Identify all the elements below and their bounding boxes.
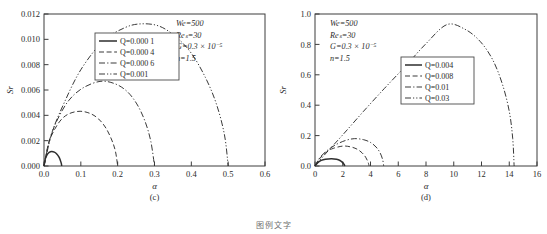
x-tick-label: 4	[368, 169, 373, 179]
x-tick-label: 0.2	[112, 169, 123, 179]
x-tick-label: 0	[313, 169, 317, 179]
y-tick-label: 0.2	[300, 131, 311, 141]
legend-label-d-2: Q=0.01	[425, 83, 449, 92]
x-tick-label: 14	[505, 169, 514, 179]
figure-caption: 图例文字	[0, 216, 547, 234]
annotation-line: G=0.3 × 10⁻⁵	[176, 42, 222, 51]
y-tick-label: 0.008	[21, 60, 40, 70]
y-tick-label: 0.010	[21, 34, 40, 44]
annotation-line: We=500	[330, 19, 358, 28]
annotation-line: Reₛ=30	[329, 31, 355, 40]
chart-panel-d: 02468101214160.00.20.40.60.81.0Srα(d)We=…	[275, 0, 547, 205]
legend-label-c-0: Q=0.000 1	[120, 37, 154, 46]
y-tick-label: 1.0	[300, 9, 311, 19]
legend-label-d-3: Q=0.03	[425, 94, 449, 103]
data-curve-c-1	[44, 111, 118, 166]
chart-svg-c: 0.00.10.20.30.40.50.60.0000.0020.0040.00…	[0, 0, 275, 205]
y-tick-label: 0.4	[300, 100, 311, 110]
panel-label: (d)	[421, 192, 431, 202]
chart-panel-c: 0.00.10.20.30.40.50.60.0000.0020.0040.00…	[0, 0, 275, 205]
y-tick-label: 0.0	[300, 161, 311, 171]
y-tick-label: 0.012	[21, 9, 40, 19]
legend-label-c-2: Q=0.000 6	[120, 59, 154, 68]
x-axis-label: α	[424, 181, 429, 191]
y-tick-label: 0.004	[21, 110, 41, 120]
x-tick-label: 0.0	[39, 169, 50, 179]
x-tick-label: 0.4	[186, 169, 197, 179]
chart-svg-d: 02468101214160.00.20.40.60.81.0Srα(d)We=…	[275, 0, 547, 205]
annotation-line: G=0.3 × 10⁻⁵	[330, 42, 376, 51]
x-tick-label: 10	[450, 169, 459, 179]
y-axis-label: Sr	[5, 86, 15, 95]
legend-label-d-0: Q=0.004	[425, 61, 453, 70]
y-tick-label: 0.8	[300, 40, 311, 50]
x-tick-label: 0.1	[76, 169, 87, 179]
legend-label-c-3: Q=0.001	[120, 70, 148, 79]
legend-label-c-1: Q=0.000 4	[120, 48, 154, 57]
x-tick-label: 0.3	[149, 169, 160, 179]
data-curve-c-2	[44, 81, 155, 166]
y-axis-label: Sr	[278, 86, 288, 95]
data-curve-d-0	[315, 159, 345, 166]
annotation-line: We=500	[176, 19, 204, 28]
x-tick-label: 16	[533, 169, 542, 179]
annotation-line: n=1.5	[330, 54, 350, 63]
figure-container: 0.00.10.20.30.40.50.60.0000.0020.0040.00…	[0, 0, 547, 234]
x-tick-label: 8	[424, 169, 428, 179]
x-tick-label: 0.6	[260, 169, 271, 179]
x-tick-label: 2	[341, 169, 345, 179]
y-tick-label: 0.000	[21, 161, 40, 171]
x-tick-label: 6	[396, 169, 400, 179]
x-tick-label: 0.5	[223, 169, 234, 179]
y-tick-label: 0.006	[21, 85, 40, 95]
x-axis-label: α	[152, 181, 157, 191]
panel-label: (c)	[150, 192, 160, 202]
y-tick-label: 0.002	[21, 136, 40, 146]
data-curve-d-2	[315, 139, 384, 166]
y-tick-label: 0.6	[300, 70, 311, 80]
x-tick-label: 12	[477, 169, 486, 179]
legend-label-d-1: Q=0.008	[425, 72, 453, 81]
